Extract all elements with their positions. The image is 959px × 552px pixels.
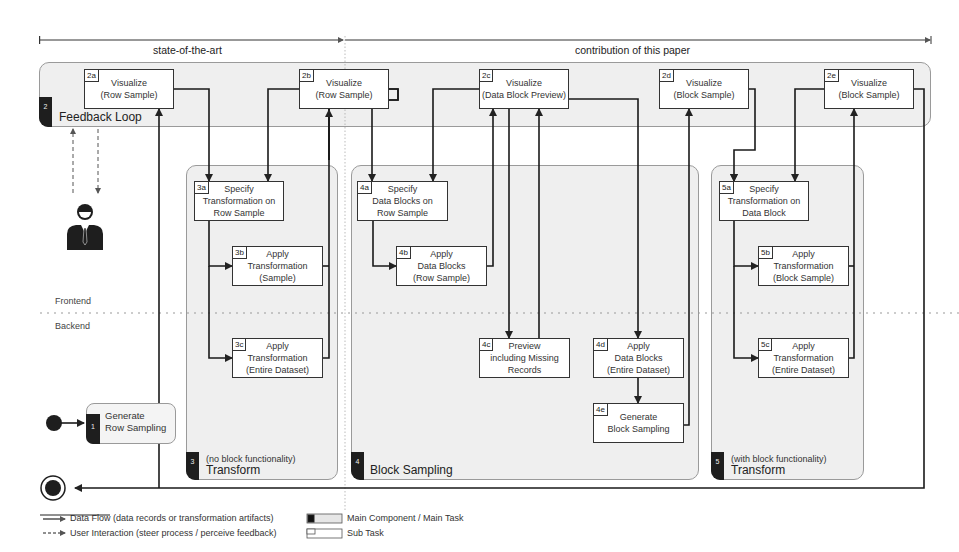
feedback-loop-title: Feedback Loop: [59, 110, 142, 124]
header-span-lines: [40, 36, 931, 44]
task-4a: 4aSpecify Data Blocks on Row Sample: [357, 181, 448, 221]
transform-no-block-badge: 3: [186, 452, 199, 480]
user-icon: [67, 204, 103, 250]
block-sampling-title: Block Sampling: [370, 463, 453, 477]
task-3a: 3aSpecify Transformation on Row Sample: [194, 181, 284, 221]
legend-data-flow: Data Flow (data records or transformatio…: [70, 513, 274, 523]
transform-no-block-title: Transform: [206, 463, 260, 477]
transform-with-block-title: Transform: [731, 463, 785, 477]
legend-user-interaction: User Interaction (steer process / percei…: [70, 528, 277, 538]
task-5a: 5aSpecify Transformation on Data Block: [719, 181, 809, 221]
task-4b: 4bApply Data Blocks (Row Sample): [396, 246, 487, 286]
feedback-loop-badge: 2: [39, 97, 52, 127]
task-4e: 4eGenerate Block Sampling: [593, 403, 684, 443]
task-2e: 2eVisualize (Block Sample): [824, 69, 914, 109]
task-2b: 2bVisualize (Row Sample): [299, 69, 389, 109]
block-sampling-badge: 4: [351, 452, 364, 480]
generate-row-sampling-badge: 1: [86, 414, 100, 444]
start-node-icon: [46, 415, 62, 431]
backend-label: Backend: [55, 321, 90, 331]
end-node-icon: [41, 476, 65, 500]
generate-row-sampling: 1 Generate Row Sampling: [86, 403, 176, 444]
transform-with-block-badge: 5: [711, 452, 724, 480]
task-2c: 2cVisualize (Data Block Preview): [479, 69, 569, 109]
legend-sub-task: Sub Task: [347, 528, 384, 538]
task-4d: 4dApply Data Blocks (Entire Dataset): [593, 338, 684, 378]
task-5b: 5bApply Transformation (Block Sample): [758, 246, 849, 286]
frontend-label: Frontend: [55, 296, 91, 306]
task-3b: 3bApply Transformation (Sample): [232, 246, 323, 286]
task-5c: 5cApply Transformation (Entire Dataset): [758, 338, 849, 378]
contribution-label: contribution of this paper: [575, 44, 690, 56]
task-2d: 2dVisualize (Block Sample): [659, 69, 749, 109]
task-4c: 4cPreview including Missing Records: [479, 338, 570, 378]
legend-main-component: Main Component / Main Task: [347, 513, 463, 523]
generate-row-sampling-label: Generate Row Sampling: [105, 410, 166, 434]
task-2a: 2aVisualize (Row Sample): [84, 69, 174, 109]
task-3c: 3cApply Transformation (Entire Dataset): [232, 338, 323, 378]
state-of-the-art-label: state-of-the-art: [153, 44, 222, 56]
